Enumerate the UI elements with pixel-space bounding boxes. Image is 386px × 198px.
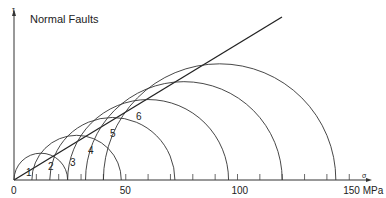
x-axis-arrow-icon [366, 178, 372, 182]
y-axis-label: τ [12, 6, 15, 13]
x-axis-label: σ [362, 172, 367, 179]
mohr-diagram: 050100150 MPa123456 Normal Faults τ σ [0, 0, 386, 198]
circle-label: 1 [26, 167, 32, 178]
x-tick-label: 50 [120, 185, 132, 196]
mohr-circle [14, 153, 68, 180]
x-tick-label: 150 MPa [343, 185, 383, 196]
x-tick-label: 100 [232, 185, 249, 196]
diagram-title: Normal Faults [30, 13, 99, 25]
circle-label: 6 [136, 111, 142, 122]
x-tick-label: 0 [11, 185, 17, 196]
mohr-circle [68, 100, 229, 180]
plot-area: 050100150 MPa123456 [11, 9, 384, 196]
